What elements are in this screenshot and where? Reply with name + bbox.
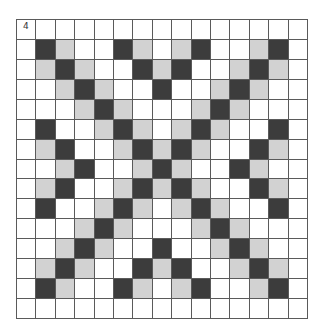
grid-cell[interactable] [17,140,36,160]
grid-cell[interactable] [153,120,172,140]
grid-cell[interactable] [56,120,75,140]
grid-cell[interactable] [269,120,288,140]
grid-cell[interactable] [133,219,152,239]
grid-cell[interactable] [114,80,133,100]
grid-cell[interactable] [269,140,288,160]
grid-cell[interactable] [269,239,288,259]
grid-cell[interactable] [75,100,94,120]
grid-cell[interactable] [192,239,211,259]
grid-cell[interactable] [192,259,211,279]
grid-cell[interactable] [269,179,288,199]
grid-cell[interactable] [289,199,308,219]
grid-cell[interactable] [192,120,211,140]
grid-cell[interactable] [250,179,269,199]
grid-cell[interactable] [192,40,211,60]
grid-cell[interactable] [230,20,249,40]
grid-cell[interactable] [75,140,94,160]
grid-cell[interactable] [17,239,36,259]
grid-cell[interactable] [153,60,172,80]
grid-cell[interactable] [192,279,211,299]
grid-cell[interactable] [133,239,152,259]
grid-cell[interactable] [289,100,308,120]
grid-cell[interactable] [95,80,114,100]
grid-cell[interactable] [114,219,133,239]
grid-cell[interactable] [211,239,230,259]
grid-cell[interactable] [211,160,230,180]
grid-cell[interactable] [153,259,172,279]
grid-cell[interactable] [17,259,36,279]
grid-cell[interactable] [153,239,172,259]
grid-cell[interactable] [289,279,308,299]
grid-cell[interactable] [250,80,269,100]
grid-cell[interactable] [95,140,114,160]
grid-cell[interactable] [56,100,75,120]
grid-cell[interactable] [172,140,191,160]
grid-cell[interactable] [269,20,288,40]
grid-cell[interactable] [192,100,211,120]
grid-cell[interactable] [211,179,230,199]
grid-cell[interactable] [75,20,94,40]
grid-cell[interactable] [153,140,172,160]
grid-cell[interactable] [153,299,172,319]
grid-cell[interactable] [192,80,211,100]
grid-cell[interactable] [17,100,36,120]
grid-cell[interactable] [133,40,152,60]
grid-cell[interactable] [250,60,269,80]
grid-cell[interactable] [230,199,249,219]
grid-cell[interactable] [172,279,191,299]
grid-cell[interactable] [36,199,55,219]
grid-cell[interactable] [36,299,55,319]
grid-cell[interactable] [172,299,191,319]
grid-cell[interactable] [230,40,249,60]
grid-cell[interactable] [17,60,36,80]
grid-cell[interactable] [289,259,308,279]
grid-cell[interactable] [17,40,36,60]
grid-cell[interactable] [211,199,230,219]
grid-cell[interactable] [95,299,114,319]
grid-cell[interactable] [56,279,75,299]
grid-cell[interactable] [211,279,230,299]
grid-cell[interactable] [172,80,191,100]
grid-cell[interactable] [230,80,249,100]
grid-cell[interactable] [230,219,249,239]
grid-cell[interactable] [36,100,55,120]
grid-cell[interactable] [153,179,172,199]
grid-cell[interactable] [192,140,211,160]
grid-cell[interactable] [172,199,191,219]
grid-cell[interactable] [269,219,288,239]
grid-cell[interactable] [250,279,269,299]
grid-cell[interactable] [153,279,172,299]
grid-cell[interactable] [36,239,55,259]
grid-cell[interactable] [17,160,36,180]
grid-cell[interactable] [289,219,308,239]
grid-cell[interactable] [172,179,191,199]
grid-cell[interactable] [269,100,288,120]
grid-cell[interactable] [230,259,249,279]
grid-cell[interactable] [172,259,191,279]
grid-cell[interactable] [211,40,230,60]
grid-cell[interactable] [56,140,75,160]
grid-cell[interactable] [17,199,36,219]
grid-cell[interactable] [75,279,94,299]
grid-cell[interactable] [56,80,75,100]
grid-cell[interactable] [172,239,191,259]
grid-cell[interactable] [114,140,133,160]
grid-cell[interactable] [230,120,249,140]
grid-cell[interactable] [36,279,55,299]
grid-cell[interactable] [75,40,94,60]
grid-cell[interactable] [36,120,55,140]
grid-cell[interactable] [289,60,308,80]
grid-cell[interactable] [230,279,249,299]
grid-cell[interactable] [56,299,75,319]
grid-cell[interactable] [56,259,75,279]
grid-cell[interactable] [36,20,55,40]
grid-cell[interactable] [114,120,133,140]
grid-cell[interactable] [211,100,230,120]
grid-cell[interactable] [153,40,172,60]
grid-cell[interactable] [56,199,75,219]
grid-cell[interactable] [192,179,211,199]
grid-cell[interactable] [269,199,288,219]
grid-cell[interactable] [56,160,75,180]
grid-cell[interactable] [153,219,172,239]
grid-cell[interactable] [269,80,288,100]
